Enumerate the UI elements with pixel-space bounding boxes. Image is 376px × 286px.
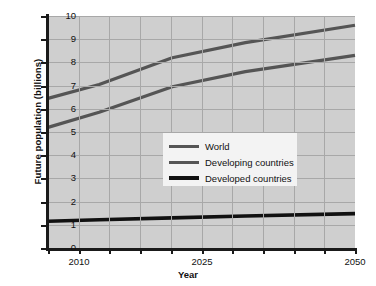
gridline-horizontal <box>48 16 355 17</box>
y-tick-label: 7 <box>50 80 76 91</box>
gridline-horizontal <box>48 86 355 87</box>
chart-legend: World Developing countries Developed cou… <box>163 133 297 186</box>
gridline-horizontal <box>48 39 355 40</box>
y-tick-mark <box>41 178 47 180</box>
legend-item-world: World <box>169 138 291 154</box>
y-tick-label: 3 <box>50 172 76 183</box>
legend-label-developing-countries: Developing countries <box>205 157 294 168</box>
x-tick-label: 2010 <box>56 256 102 267</box>
y-tick-label: 2 <box>50 196 76 207</box>
y-tick-label: 10 <box>50 10 76 21</box>
y-tick-mark <box>41 62 47 64</box>
y-tick-mark <box>41 225 47 227</box>
y-tick-mark <box>41 202 47 204</box>
y-tick-label: 1 <box>50 219 76 230</box>
legend-item-developed-countries: Developed countries <box>169 170 291 186</box>
gridline-horizontal <box>48 225 355 226</box>
y-tick-mark <box>41 132 47 134</box>
x-tick-mark <box>232 249 234 254</box>
y-tick-mark <box>41 155 47 157</box>
y-tick-label: 4 <box>50 149 76 160</box>
legend-item-developing-countries: Developing countries <box>169 154 291 170</box>
legend-label-world: World <box>205 141 230 152</box>
x-tick-mark <box>171 249 173 254</box>
plot-area <box>48 16 355 248</box>
y-tick-label: 0 <box>50 242 76 253</box>
x-tick-label: 2025 <box>179 256 225 267</box>
legend-swatch-world <box>169 145 199 148</box>
y-tick-label: 9 <box>50 33 76 44</box>
legend-swatch-developed-countries <box>169 176 199 180</box>
gridline-horizontal <box>48 109 355 110</box>
y-tick-label: 6 <box>50 103 76 114</box>
x-tick-mark <box>79 249 81 254</box>
y-tick-mark <box>41 86 47 88</box>
gridline-horizontal <box>48 202 355 203</box>
y-tick-mark <box>41 16 47 18</box>
y-tick-label: 8 <box>50 56 76 67</box>
y-tick-mark <box>41 39 47 41</box>
x-tick-label: 2050 <box>332 256 376 267</box>
x-tick-mark <box>48 249 50 254</box>
x-tick-mark <box>140 249 142 254</box>
x-tick-mark <box>294 249 296 254</box>
gridline-horizontal <box>48 62 355 63</box>
y-axis-title: Future population (billions) <box>32 22 43 222</box>
x-tick-mark <box>263 249 265 254</box>
legend-label-developed-countries: Developed countries <box>205 173 292 184</box>
y-tick-mark <box>41 248 47 250</box>
legend-swatch-developing-countries <box>169 161 199 164</box>
x-tick-mark <box>109 249 111 254</box>
x-axis-title: Year <box>0 269 376 280</box>
x-tick-mark <box>324 249 326 254</box>
y-tick-mark <box>41 109 47 111</box>
chart-figure: Future population (billions) 01234567891… <box>0 0 376 286</box>
y-tick-label: 5 <box>50 126 76 137</box>
x-tick-mark <box>355 249 357 254</box>
x-tick-mark <box>202 249 204 254</box>
